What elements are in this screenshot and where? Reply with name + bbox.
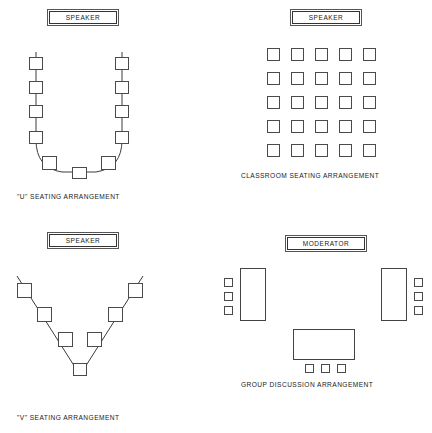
moderator-plaque: MODERATOR [285, 235, 367, 252]
classroom-panel-caption: CLASSROOM SEATING ARRANGEMENT [241, 172, 379, 179]
u-seat-right-3 [115, 105, 129, 118]
classroom-seat [363, 144, 376, 157]
v-path-graphic [0, 217, 216, 433]
group-table-left [240, 268, 266, 321]
classroom-seat [363, 120, 376, 133]
classroom-seating-panel: SPEAKER CLASSROOM SEATING ARRANGEMENT [216, 0, 432, 216]
u-seat-corner-right [101, 156, 116, 170]
v-seat-left-2 [37, 307, 52, 322]
group-table-right [381, 268, 407, 321]
u-seat-right-1 [115, 57, 129, 70]
classroom-seat [291, 144, 304, 157]
v-seat-left-3 [58, 332, 73, 347]
u-panel-caption: "U" SEATING ARRANGEMENT [17, 193, 120, 200]
classroom-seat [291, 72, 304, 85]
classroom-seat [291, 96, 304, 109]
group-chair-right-1 [414, 278, 423, 287]
u-seat-left-1 [29, 57, 43, 70]
classroom-seat [363, 96, 376, 109]
group-chair-bottom-1 [305, 364, 314, 373]
v-seat-vertex [73, 363, 87, 376]
classroom-seat [267, 72, 280, 85]
group-discussion-panel: MODERATOR GROUP DISCUSSION ARRANGEMENT [216, 217, 432, 433]
group-chair-right-2 [414, 292, 423, 301]
u-seat-left-2 [29, 81, 43, 94]
classroom-seat [315, 96, 328, 109]
classroom-seat [267, 120, 280, 133]
classroom-seat [315, 144, 328, 157]
v-panel-caption: "V" SEATING ARRANGEMENT [17, 414, 119, 421]
moderator-plaque-label: MODERATOR [287, 237, 365, 250]
v-seat-right-1 [128, 283, 143, 298]
u-seat-corner-left [42, 156, 57, 170]
classroom-seat [267, 144, 280, 157]
classroom-seat [339, 120, 352, 133]
v-seat-right-2 [108, 307, 123, 322]
group-chair-left-1 [224, 278, 233, 287]
group-chair-left-3 [224, 306, 233, 315]
classroom-seat [339, 72, 352, 85]
u-seat-right-2 [115, 81, 129, 94]
classroom-seat [339, 96, 352, 109]
classroom-seat [363, 72, 376, 85]
v-seat-right-3 [87, 332, 102, 347]
group-chair-right-3 [414, 306, 423, 315]
u-seat-right-4 [115, 131, 129, 144]
speaker-plaque-classroom: SPEAKER [290, 9, 362, 26]
classroom-seat [315, 48, 328, 61]
u-seat-left-4 [29, 131, 43, 144]
classroom-seat [291, 48, 304, 61]
group-chair-bottom-2 [321, 364, 330, 373]
group-chair-left-2 [224, 292, 233, 301]
group-panel-caption: GROUP DISCUSSION ARRANGEMENT [241, 381, 373, 388]
u-seat-left-3 [29, 105, 43, 118]
speaker-plaque-classroom-label: SPEAKER [292, 11, 360, 24]
u-seating-panel: SPEAKER "U" SEATING ARRANGEMENT [0, 0, 216, 216]
v-seating-panel: SPEAKER "V" SEATING ARRANGEMENT [0, 217, 216, 433]
classroom-seat [339, 144, 352, 157]
group-table-bottom [293, 329, 355, 360]
classroom-seat [291, 120, 304, 133]
v-seat-left-1 [17, 283, 32, 298]
classroom-seat [267, 96, 280, 109]
classroom-seat [267, 48, 280, 61]
classroom-seat [315, 72, 328, 85]
classroom-seat [363, 48, 376, 61]
group-chair-bottom-3 [337, 364, 346, 373]
u-seat-bottom-center [72, 167, 87, 179]
classroom-seat [339, 48, 352, 61]
classroom-seat [315, 120, 328, 133]
